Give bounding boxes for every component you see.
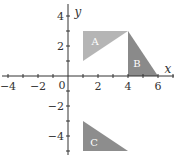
y-tick-label: −4 — [48, 130, 64, 143]
x-tick-label: 2 — [95, 80, 102, 93]
origin-label: 0 — [59, 79, 66, 92]
y-tick-label: 4 — [57, 10, 64, 23]
triangle-a — [83, 31, 128, 61]
x-tick-label: 6 — [155, 80, 162, 93]
x-tick-label: 4 — [125, 80, 132, 93]
y-tick-label: −2 — [48, 100, 64, 113]
x-tick-label: −4 — [0, 80, 16, 93]
triangle-a-label: A — [90, 36, 99, 47]
plane-svg: −4 −2 0 2 4 6 4 2 −2 −4 x y A B C — [0, 0, 176, 156]
y-tick-label: 2 — [57, 40, 64, 53]
triangle-b-label: B — [133, 58, 140, 69]
x-axis-label: x — [165, 62, 172, 76]
y-axis-label: y — [74, 5, 82, 19]
triangle-c-label: C — [90, 137, 98, 148]
x-tick-label: −2 — [30, 80, 46, 93]
coordinate-plane-diagram: −4 −2 0 2 4 6 4 2 −2 −4 x y A B C — [0, 0, 176, 156]
triangle-b — [128, 31, 158, 76]
